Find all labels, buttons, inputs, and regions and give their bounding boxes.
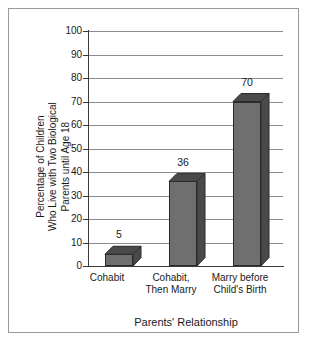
x-tick-label-cohabit-then-marry: Cohabit, Then Marry	[143, 272, 199, 296]
bar-value-label-cohabit-then-marry: 36	[157, 157, 209, 168]
gridline-100	[89, 31, 283, 32]
x-tick-label-marry-before-childs-birth-line-1: Marry before	[207, 272, 273, 284]
y-axis-title-line-1: Percentage of Children	[35, 57, 47, 277]
x-tick-label-cohabit: Cohabit	[79, 272, 135, 284]
bar-value-label-cohabit: 5	[93, 229, 145, 240]
bar-value-label-marry-before-childs-birth: 70	[221, 77, 273, 88]
y-tick-label-40: 40	[56, 167, 82, 177]
x-tick-label-cohabit-line-1: Cohabit	[79, 272, 135, 284]
y-axis-line	[88, 30, 89, 267]
y-tick-label-20: 20	[56, 214, 82, 224]
bar-cohabit-then-marry	[169, 171, 205, 266]
x-axis-line	[88, 266, 284, 268]
bar-marry-before-childs-birth	[233, 92, 269, 266]
y-tick-label-60: 60	[56, 120, 82, 130]
y-tick-label-90: 90	[56, 50, 82, 60]
x-tick-label-cohabit-then-marry-line-2: Then Marry	[143, 284, 199, 296]
plot-area: 5 36 70	[89, 31, 283, 266]
y-tick-label-10: 10	[56, 238, 82, 248]
bar-3d-shading	[169, 171, 205, 266]
y-tick-label-80: 80	[56, 73, 82, 83]
chart-figure: Percentage of Children Who Live with Two…	[0, 0, 309, 343]
y-axis-title: Percentage of Children Who Live with Two…	[22, 30, 56, 266]
x-axis-title: Parents' Relationship	[89, 316, 283, 328]
gridline-90	[89, 55, 283, 56]
x-tick-label-marry-before-childs-birth: Marry before Child's Birth	[207, 272, 273, 296]
y-tick-label-100: 100	[56, 26, 82, 36]
x-tick-label-cohabit-then-marry-line-1: Cohabit,	[143, 272, 199, 284]
y-tick-label-30: 30	[56, 191, 82, 201]
bar-cohabit	[105, 243, 141, 266]
y-tick-label-70: 70	[56, 97, 82, 107]
bar-3d-shading	[233, 92, 269, 266]
y-axis-tick-labels: 100 90 80 70 60 50 40 30 20 10 0	[55, 0, 82, 343]
bar-3d-shading	[105, 243, 141, 266]
x-tick-label-marry-before-childs-birth-line-2: Child's Birth	[207, 284, 273, 296]
y-tick-label-0: 0	[56, 261, 82, 271]
y-tick-label-50: 50	[56, 144, 82, 154]
